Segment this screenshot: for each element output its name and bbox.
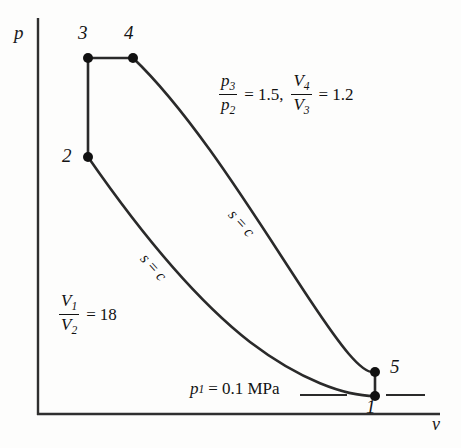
state-label-5: 5 — [390, 356, 400, 378]
state-label-3: 3 — [78, 22, 88, 44]
volume-ratio-43-den: V — [293, 95, 303, 114]
pressure-ratio-den: p — [221, 95, 230, 114]
equals-sign-4: = — [208, 379, 218, 399]
state-point-2-marker — [83, 152, 93, 162]
inlet-pressure-annotation: p1 = 0.1 MPa — [190, 379, 280, 399]
compression-ratio-den: V — [61, 315, 71, 334]
volume-ratio-43-fraction: V4 V3 — [291, 72, 311, 117]
equals-sign-1: = — [244, 85, 254, 105]
state-label-2: 2 — [62, 145, 72, 167]
ratio-annotations: p3 p2 = 1.5 , V4 V3 = 1.2 — [216, 72, 353, 117]
equals-sign-2: = — [319, 85, 329, 105]
compression-ratio-num-sub: 1 — [71, 300, 77, 313]
volume-ratio-43-value: 1.2 — [332, 85, 353, 105]
x-axis-label: v — [432, 414, 440, 435]
pressure-ratio-num-sub: 3 — [230, 80, 236, 93]
compression-ratio-value: 18 — [100, 305, 117, 325]
volume-ratio-43-num: V — [293, 71, 303, 90]
process-1-2-isentropic-compression — [88, 157, 375, 396]
equals-sign-3: = — [86, 305, 96, 325]
compression-ratio-fraction: V1 V2 — [59, 292, 79, 337]
pressure-ratio-value: 1.5 — [258, 85, 279, 105]
y-axis-label: p — [14, 22, 24, 44]
volume-ratio-43-den-sub: 3 — [304, 105, 310, 118]
comma-separator: , — [279, 85, 283, 105]
pressure-ratio-fraction: p3 p2 — [219, 72, 237, 117]
state-label-1: 1 — [366, 396, 376, 418]
inlet-pressure-value: 0.1 MPa — [222, 379, 280, 399]
inlet-pressure-sub: 1 — [199, 383, 205, 396]
state-point-3-marker — [83, 53, 93, 63]
compression-ratio-annotation: V1 V2 = 18 — [56, 292, 117, 337]
state-point-5-marker — [370, 367, 380, 377]
pressure-ratio-den-sub: 2 — [230, 105, 236, 118]
state-point-4-marker — [128, 53, 138, 63]
pv-diagram: p v 1 2 3 4 5 p3 p2 = 1.5 , V4 V3 = 1.2 … — [0, 0, 461, 448]
inlet-pressure-symbol: p — [190, 379, 199, 399]
state-label-4: 4 — [124, 22, 134, 44]
compression-ratio-den-sub: 2 — [71, 325, 77, 338]
pressure-ratio-num: p — [221, 71, 230, 90]
compression-ratio-num: V — [61, 291, 71, 310]
volume-ratio-43-num-sub: 4 — [304, 80, 310, 93]
